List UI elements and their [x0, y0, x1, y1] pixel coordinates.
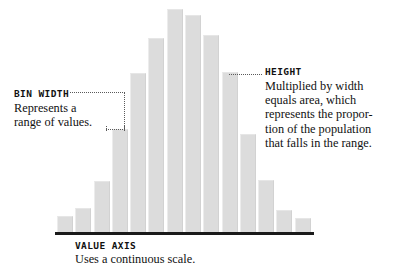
annotation-height: HEIGHT Multiplied by width equals area, … [265, 66, 393, 150]
height-leader-horizontal [229, 74, 262, 75]
histogram-bar [75, 208, 91, 232]
annotation-bin-width-title: BIN WIDTH [14, 88, 92, 99]
annotation-height-line: that falls in the range. [265, 136, 393, 150]
annotation-height-line: Multiplied by width [265, 79, 393, 93]
value-axis-line [55, 232, 314, 235]
histogram-bar [222, 72, 238, 232]
histogram-bar [148, 38, 164, 232]
annotation-value-axis-body: Uses a continuous scale. [75, 252, 195, 266]
annotation-height-line: represents the propor- [265, 107, 393, 121]
histogram-bar [203, 35, 219, 232]
histogram-bar [57, 216, 73, 232]
annotation-value-axis: VALUE AXIS Uses a continuous scale. [75, 240, 195, 266]
annotation-height-title: HEIGHT [265, 66, 393, 77]
annotation-height-line: tion of the population [265, 122, 393, 136]
annotation-height-body: Multiplied by width equals area, which r… [265, 79, 393, 150]
histogram-bar [130, 73, 146, 232]
histogram-bar [258, 180, 274, 232]
annotation-bin-width-body: Represents a range of values. [14, 101, 92, 129]
annotation-bin-width-line: range of values. [14, 115, 92, 129]
histogram-bar [112, 129, 128, 232]
bin-width-bracket-tick-right [124, 126, 125, 131]
histogram-bar [295, 218, 311, 232]
histogram-annotated-figure: BIN WIDTH Represents a range of values. … [0, 0, 396, 279]
histogram-bar [276, 210, 292, 232]
annotation-value-axis-line: Uses a continuous scale. [75, 252, 195, 266]
histogram-bar [185, 15, 201, 232]
annotation-height-line: equals area, which [265, 93, 393, 107]
bin-width-bracket-tick-left [106, 126, 107, 131]
annotation-value-axis-title: VALUE AXIS [75, 240, 195, 251]
histogram-bar [240, 134, 256, 232]
bin-width-leader-vertical [124, 92, 125, 130]
annotation-bin-width-line: Represents a [14, 101, 92, 115]
annotation-bin-width: BIN WIDTH Represents a range of values. [14, 88, 92, 129]
bin-width-bracket-span [106, 129, 125, 130]
histogram-bar [167, 9, 183, 232]
histogram-bar [94, 181, 110, 232]
